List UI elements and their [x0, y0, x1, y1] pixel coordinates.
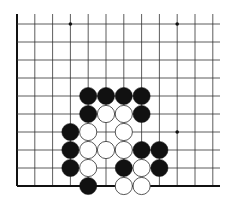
star-point-icon — [69, 22, 73, 26]
white-stone-icon — [97, 141, 114, 158]
white-stone-icon — [115, 105, 132, 122]
go-board-diagram — [0, 0, 234, 211]
black-stone-icon — [115, 87, 132, 104]
black-stone-icon — [133, 141, 150, 158]
star-point-icon — [175, 22, 179, 26]
black-stone-icon — [80, 105, 97, 122]
white-stone-icon — [97, 105, 114, 122]
white-stone-icon — [80, 123, 97, 140]
white-stone-icon — [115, 141, 132, 158]
black-stone-icon — [62, 159, 79, 176]
black-stone-icon — [115, 159, 132, 176]
black-stone-icon — [151, 141, 168, 158]
star-point-icon — [175, 130, 179, 134]
black-stone-icon — [80, 87, 97, 104]
white-stone-icon — [80, 159, 97, 176]
black-stone-icon — [80, 177, 97, 194]
white-stone-icon — [115, 123, 132, 140]
black-stone-icon — [151, 159, 168, 176]
go-board-canvas — [0, 0, 234, 211]
black-stone-icon — [133, 105, 150, 122]
stones — [62, 87, 168, 194]
white-stone-icon — [133, 177, 150, 194]
black-stone-icon — [62, 141, 79, 158]
black-stone-icon — [62, 123, 79, 140]
white-stone-icon — [115, 177, 132, 194]
white-stone-icon — [80, 141, 97, 158]
black-stone-icon — [97, 87, 114, 104]
white-stone-icon — [133, 159, 150, 176]
black-stone-icon — [133, 87, 150, 104]
